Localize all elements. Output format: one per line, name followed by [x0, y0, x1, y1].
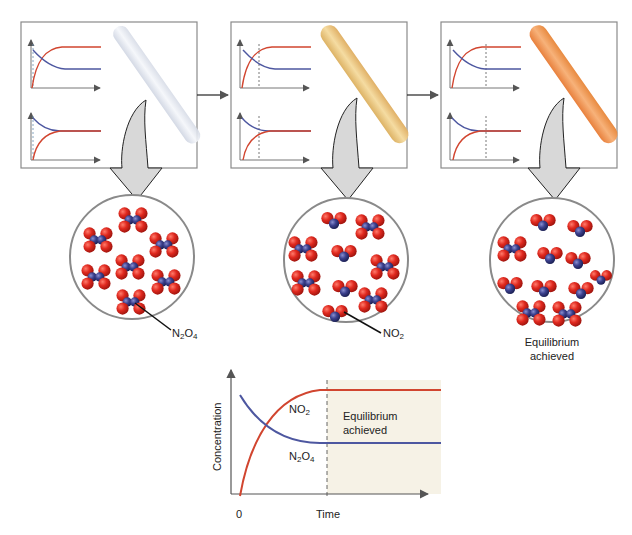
label-n2o4: N2O4 — [172, 327, 197, 341]
label-no2: NO2 — [383, 327, 404, 341]
equilibrium-region — [327, 380, 441, 494]
panel-stage-2 — [231, 22, 412, 200]
region-label: Equilibrium achieved — [343, 409, 397, 437]
y-axis-label: Concentration — [211, 403, 223, 472]
equilibrium-diagram — [0, 0, 632, 535]
caption-line-2: achieved — [492, 349, 612, 363]
panel-stage-3 — [441, 22, 621, 200]
panel-stage-1 — [21, 22, 203, 200]
equilibrium-caption: Equilibrium achieved — [492, 335, 612, 363]
series-label-n2o4: N2O4 — [289, 450, 314, 464]
caption-line-1: Equilibrium — [492, 335, 612, 349]
molecule-view-mixture — [284, 198, 408, 333]
concentration-time-chart — [231, 370, 441, 498]
region-line-1: Equilibrium — [343, 409, 397, 423]
molecule-view-n2o4 — [70, 195, 194, 330]
series-label-no2: NO2 — [289, 403, 310, 417]
molecule-view-equilibrium — [490, 198, 614, 327]
region-line-2: achieved — [343, 423, 397, 437]
x-origin-label: 0 — [236, 508, 242, 520]
x-axis-label: Time — [316, 508, 340, 520]
